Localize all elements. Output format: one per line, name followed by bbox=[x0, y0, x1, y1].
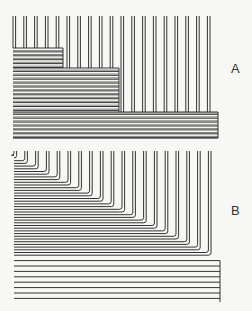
panel-b-label: B bbox=[231, 203, 240, 218]
panel-a-label: A bbox=[231, 61, 240, 76]
diagram-canvas bbox=[0, 0, 252, 311]
panel-a-wiring bbox=[13, 16, 218, 138]
panel-b-wiring bbox=[12, 151, 221, 302]
